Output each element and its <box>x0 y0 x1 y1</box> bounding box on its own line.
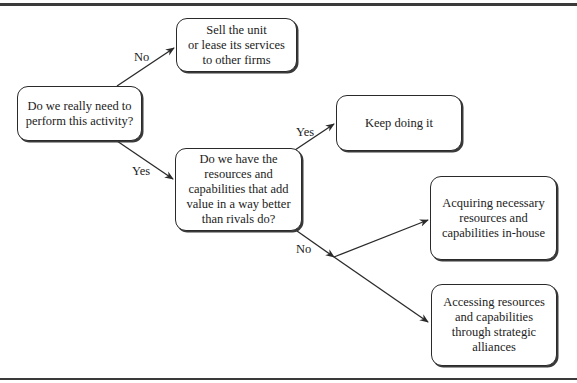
node-have-resources: Do we have the resources and capabilitie… <box>175 148 302 231</box>
edge-label-resources-yes: Yes <box>296 125 314 139</box>
edge-label-resources-no: No <box>296 242 311 256</box>
node-access-alliances: Accessing resources and capabilities thr… <box>431 284 557 366</box>
edge-label-need-no: No <box>134 50 149 64</box>
node-keep-doing: Keep doing it <box>336 95 462 151</box>
node-sell-unit-text: Sell the unit or lease its services to o… <box>188 23 285 68</box>
node-acquire-inhouse: Acquiring necessary resources and capabi… <box>430 176 557 260</box>
node-access-alliances-text: Accessing resources and capabilities thr… <box>443 295 545 355</box>
node-have-resources-text: Do we have the resources and capabilitie… <box>186 152 290 227</box>
node-acquire-inhouse-text: Acquiring necessary resources and capabi… <box>442 196 545 241</box>
node-need-activity-text: Do we really need to perform this activi… <box>26 99 134 129</box>
node-keep-doing-text: Keep doing it <box>365 116 433 131</box>
arrow-split-to-acquire <box>334 220 428 257</box>
node-sell-unit: Sell the unit or lease its services to o… <box>176 18 297 72</box>
edge-label-need-yes: Yes <box>132 164 150 178</box>
arrow-split-to-access <box>334 257 428 322</box>
node-need-activity: Do we really need to perform this activi… <box>17 86 142 141</box>
